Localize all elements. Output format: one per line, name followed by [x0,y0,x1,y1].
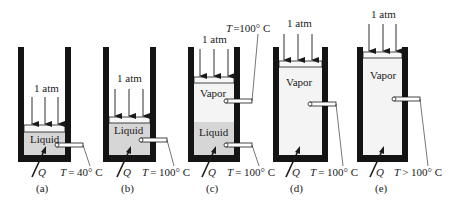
heat-label: Q [208,166,216,178]
panel-e: 1 atm Vapor Q T> 100° C (e) [357,8,442,195]
pressure-arrows [369,24,396,51]
pressure-label: 1 atm [202,33,227,45]
phase-label-vapor: Vapor [370,69,397,81]
panel-a: 1 atm Liquid Q T= 40° C (a) [18,47,103,195]
panel-b: 1 atm Liquid Q T= 100° C (b) [103,47,190,195]
pressure-label: 1 atm [34,82,59,94]
pressure-arrows [200,49,228,76]
pressure-arrows [32,97,58,124]
pressure-label: 1 atm [371,8,396,20]
temperature-label: T= 100° C [227,166,275,178]
phase-label-vapor: Vapor [286,76,313,88]
temperature-label: T> 100° C [394,166,442,178]
panel-d: 1 atm Vapor Q T= 100° C (d) [273,17,358,195]
heat-label: Q [38,166,46,178]
phase-label-liquid: Liquid [199,126,229,138]
pressure-arrows [115,89,143,116]
phase-change-diagram: 1 atm Liquid Q T= 40° C (a) 1 atm [0,0,454,207]
panel-c: 1 atm Vapor Liquid T=100° C Q T= 100° C … [188,22,275,195]
heat-label: Q [292,166,300,178]
phase-label-liquid: Liquid [30,133,60,145]
heat-label: Q [376,166,384,178]
piston [279,61,322,67]
heat-label: Q [123,166,131,178]
phase-label-vapor: Vapor [200,87,227,99]
pressure-label: 1 atm [287,17,312,29]
temperature-label: T= 100° C [310,166,358,178]
piston [194,77,234,83]
panel-caption: (d) [290,182,303,195]
pressure-label: 1 atm [117,72,142,84]
panel-caption: (b) [121,182,134,195]
temperature-label-vapor: T=100° C [226,22,270,34]
pressure-arrows [284,34,312,60]
temperature-label: T= 100° C [142,166,190,178]
phase-label-liquid: Liquid [114,124,144,136]
temperature-label: T= 40° C [60,166,103,178]
panel-caption: (c) [206,182,219,195]
piston [363,52,402,58]
piston [24,125,65,132]
panel-caption: (e) [375,182,388,195]
panel-caption: (a) [36,182,49,195]
piston [109,117,150,123]
